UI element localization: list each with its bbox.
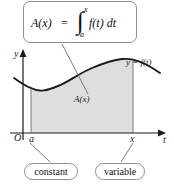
area-function-figure: A(x) = ∫ x a f(t) dt y t O a x y = f(t) … <box>0 0 174 184</box>
origin-label: O <box>14 133 21 143</box>
callout-constant: constant <box>24 163 78 180</box>
formula-content: A(x) = ∫ x a f(t) dt <box>24 2 138 44</box>
tick-label-a: a <box>29 134 34 144</box>
constant-leader-line <box>30 143 50 162</box>
area-region-label: A(x) <box>74 95 90 104</box>
formula-integrand: f(t) dt <box>89 17 116 29</box>
variable-leader-line <box>121 143 133 162</box>
t-axis-label: t <box>163 135 166 145</box>
formula-callout-box: A(x) = ∫ x a f(t) dt <box>23 1 137 43</box>
curve-label: y = f(t) <box>126 58 152 67</box>
formula-lhs: A(x) <box>31 17 52 29</box>
integral-upper-limit: x <box>84 6 88 14</box>
y-axis-label: y <box>14 49 18 59</box>
tick-label-x: x <box>130 134 134 144</box>
formula-equals-sign: = <box>61 17 68 29</box>
callout-variable: variable <box>95 163 145 180</box>
integral-lower-limit: a <box>80 31 84 39</box>
y-axis-arrowhead <box>20 49 27 57</box>
